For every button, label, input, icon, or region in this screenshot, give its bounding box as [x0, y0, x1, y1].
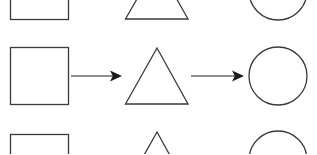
diagram-canvas: [0, 0, 317, 154]
circle-shape[interactable]: [249, 0, 307, 20]
arrow-triangle-to-circle[interactable]: [191, 71, 244, 82]
square-shape[interactable]: [11, 0, 69, 20]
square-shape[interactable]: [11, 48, 69, 105]
triangle-shape[interactable]: [126, 48, 189, 104]
shape-flow-diagram: [0, 0, 317, 154]
triangle-shape[interactable]: [126, 0, 189, 19]
row-top: [11, 0, 308, 20]
triangle-shape[interactable]: [126, 132, 189, 154]
arrow-square-to-triangle[interactable]: [71, 71, 122, 82]
row-middle: [11, 47, 308, 105]
circle-shape[interactable]: [249, 131, 307, 154]
row-bottom: [11, 131, 308, 154]
square-shape[interactable]: [11, 135, 69, 155]
circle-shape[interactable]: [249, 47, 307, 105]
